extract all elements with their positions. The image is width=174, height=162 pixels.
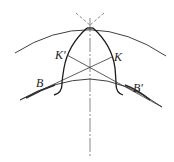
gear-tooth-diagram (0, 0, 174, 162)
apex-extension-left (76, 13, 91, 26)
label-k-prime: K′ (55, 49, 66, 61)
addendum-circle-arc (15, 30, 166, 56)
line-of-action-bk (20, 57, 112, 100)
label-b: B (36, 77, 43, 89)
apex-extension-right (89, 13, 104, 26)
label-b-prime: B′ (133, 82, 143, 94)
diagram-canvas: K′ K B B′ (0, 0, 174, 162)
label-k: K (114, 51, 122, 63)
